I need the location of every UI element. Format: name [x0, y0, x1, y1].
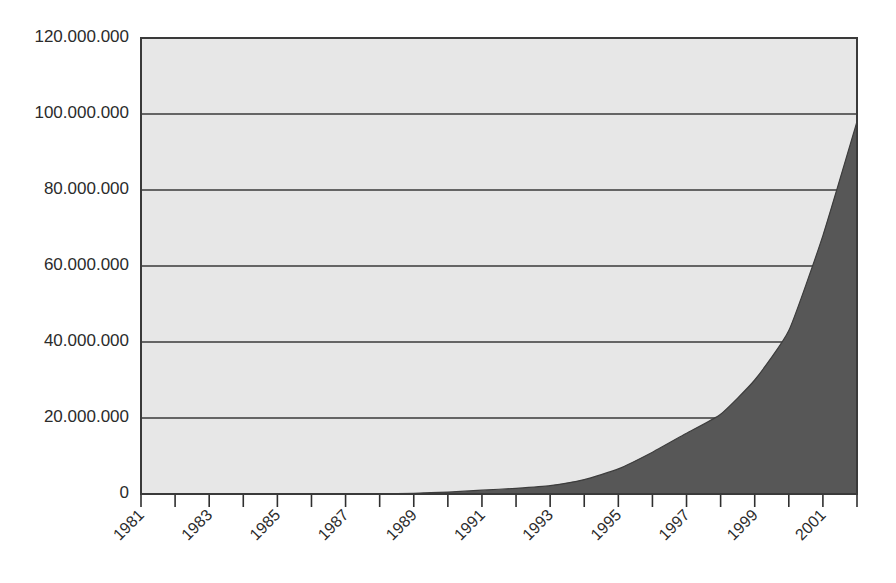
- area-chart: 020.000.00040.000.00060.000.00080.000.00…: [0, 0, 896, 583]
- y-tick-label-60000000: 60.000.000: [44, 255, 129, 274]
- y-tick-label-80000000: 80.000.000: [44, 179, 129, 198]
- y-tick-label-120000000: 120.000.000: [34, 27, 129, 46]
- y-tick-label-20000000: 20.000.000: [44, 407, 129, 426]
- chart-container: 020.000.00040.000.00060.000.00080.000.00…: [0, 0, 896, 583]
- y-tick-label-0: 0: [120, 483, 129, 502]
- y-tick-label-40000000: 40.000.000: [44, 331, 129, 350]
- y-tick-label-100000000: 100.000.000: [34, 103, 129, 122]
